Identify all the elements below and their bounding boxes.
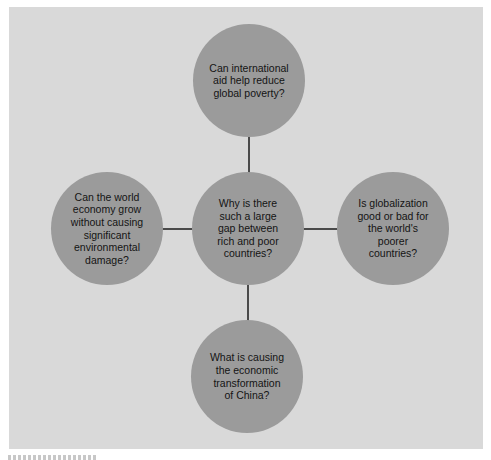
node-left-text: Can the world economy grow without causi… <box>71 191 143 267</box>
connector-left-center <box>160 228 194 230</box>
connector-right-center <box>302 228 338 230</box>
connector-top-center <box>248 136 250 174</box>
node-bottom-china: What is causing the economic transformat… <box>191 320 303 433</box>
node-bottom-text: What is causing the economic transformat… <box>210 351 284 401</box>
node-right-globalization: Is globalization good or bad for the wor… <box>337 172 449 285</box>
node-right-text: Is globalization good or bad for the wor… <box>357 197 428 260</box>
node-center-rich-poor-gap: Why is there such a large gap between ri… <box>192 172 304 285</box>
node-center-text: Why is there such a large gap between ri… <box>217 197 278 260</box>
cutoff-caption <box>8 455 98 460</box>
node-left-environment: Can the world economy grow without causi… <box>51 172 163 285</box>
node-top-text: Can international aid help reduce global… <box>209 62 288 100</box>
node-top-international-aid: Can international aid help reduce global… <box>193 24 305 137</box>
connector-bottom-center <box>247 285 249 321</box>
